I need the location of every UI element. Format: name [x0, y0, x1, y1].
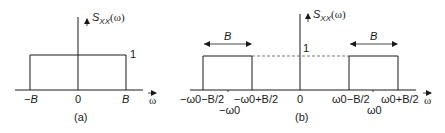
- level-label: 1: [303, 42, 309, 54]
- tick-right-outer: ω0+B/2: [381, 93, 419, 105]
- tick-left-center: −ω0: [219, 104, 240, 116]
- x-axis-label: ω: [149, 94, 156, 106]
- x-axis-label: ω: [424, 94, 431, 106]
- rect-spectrum-right: [349, 56, 398, 90]
- tick-minus-b: −B: [24, 93, 38, 105]
- caption-a: (a): [74, 111, 87, 123]
- tick-zero: 0: [297, 93, 303, 105]
- panel-a: SXX(ω) 1 −B 0 B ω (a): [15, 11, 156, 123]
- level-label: 1: [130, 48, 136, 60]
- power-spectral-density-diagram: SXX(ω) 1 −B 0 B ω (a) B B: [0, 0, 445, 133]
- panel-b: B B SXX(ω) 1 −ω0−B/2 −ω0 −ω0+B/2 0 ω0−B/…: [180, 8, 431, 123]
- tick-left-inner: −ω0+B/2: [234, 93, 278, 105]
- tick-right-center: ω0: [367, 104, 382, 116]
- caption-b: (b): [295, 111, 308, 123]
- rect-spectrum-left: [203, 56, 252, 90]
- bandwidth-label-right: B: [370, 30, 377, 42]
- bandwidth-label-left: B: [224, 30, 231, 42]
- tick-right-inner: ω0−B/2: [332, 93, 370, 105]
- tick-b: B: [122, 93, 129, 105]
- y-axis-label: SXX(ω): [92, 11, 125, 26]
- tick-left-outer: −ω0−B/2: [180, 93, 224, 105]
- y-axis-label: SXX(ω): [313, 8, 346, 23]
- tick-zero: 0: [75, 93, 81, 105]
